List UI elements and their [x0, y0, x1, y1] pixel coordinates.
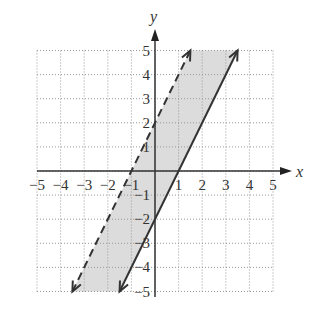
y-axis-label: y — [148, 8, 158, 26]
y-tick-label: −3 — [134, 235, 150, 251]
y-tick-label: −4 — [134, 259, 150, 275]
x-tick-label: −5 — [29, 177, 45, 193]
x-tick-label: −4 — [53, 177, 69, 193]
y-tick-label: 5 — [143, 43, 151, 59]
y-tick-label: 1 — [143, 139, 151, 155]
x-tick-label: 4 — [246, 177, 254, 193]
x-axis-arrow-icon — [280, 167, 292, 175]
x-tick-label: −2 — [100, 177, 116, 193]
x-tick-label: 5 — [269, 177, 277, 193]
y-tick-label: 3 — [143, 91, 151, 107]
x-tick-label: 1 — [175, 177, 183, 193]
x-tick-label: 2 — [198, 177, 206, 193]
y-axis-arrow-icon — [151, 29, 159, 41]
y-tick-label: −5 — [134, 284, 150, 300]
y-tick-label: −2 — [134, 211, 150, 227]
x-axis-label: x — [295, 163, 303, 180]
x-tick-label: 3 — [222, 177, 230, 193]
x-tick-label: −3 — [76, 177, 92, 193]
inequality-graph: −5−4−3−2−11234554321−1−2−3−4−5 x y — [0, 0, 321, 314]
y-tick-label: −1 — [134, 187, 150, 203]
y-tick-label: 4 — [143, 67, 151, 83]
y-tick-label: 2 — [143, 115, 151, 131]
